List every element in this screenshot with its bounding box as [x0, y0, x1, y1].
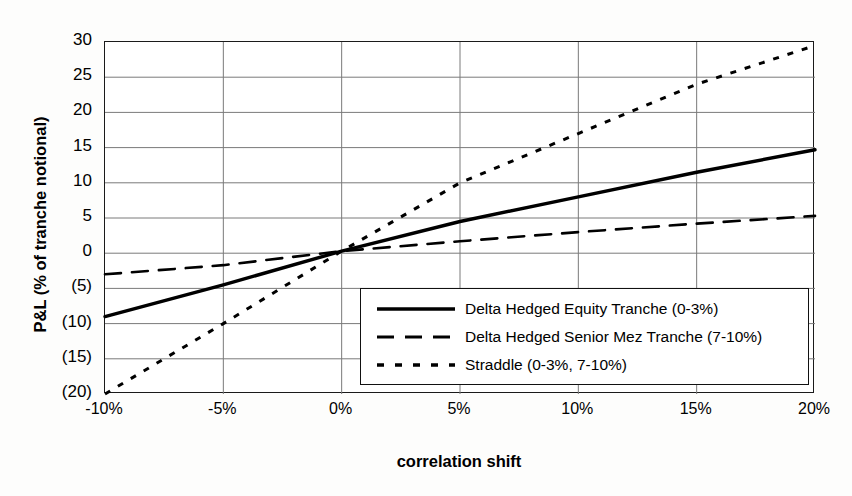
x-tick-label: 20% — [798, 400, 830, 418]
y-tick-label-text: 5 — [83, 206, 92, 226]
x-tick-label: 15% — [680, 400, 712, 418]
y-tick-label-text: 10 — [73, 171, 92, 191]
x-tick-label: 10% — [561, 400, 593, 418]
y-tick-label-text: (10) — [62, 312, 92, 332]
x-tick-label: 5% — [447, 400, 470, 418]
y-tick-label-text: 0 — [83, 241, 92, 261]
legend-item-label: Delta Hedged Senior Mez Tranche (7-10%) — [465, 328, 762, 346]
legend-item-label: Straddle (0-3%, 7-10%) — [465, 356, 627, 374]
x-tick-label: -10% — [85, 400, 122, 418]
series-line-2 — [105, 216, 815, 274]
y-tick-label-text: 20 — [73, 100, 92, 120]
y-tick-label-text: 15 — [73, 136, 92, 156]
legend-line-swatch — [375, 302, 457, 316]
y-tick-label-text: (5) — [71, 276, 92, 296]
legend-line-swatch — [375, 330, 457, 344]
legend-item: Straddle (0-3%, 7-10%) — [361, 351, 808, 379]
y-tick-label-text: (15) — [62, 347, 92, 367]
y-tick-label-text: 30 — [73, 30, 92, 50]
chart-legend: Delta Hedged Equity Tranche (0-3%)Delta … — [360, 288, 809, 385]
y-tick-label-text: (20) — [62, 382, 92, 402]
x-tick-label: 0% — [329, 400, 352, 418]
y-tick-label-text: 25 — [73, 65, 92, 85]
legend-item: Delta Hedged Equity Tranche (0-3%) — [361, 295, 808, 323]
y-axis-title: P&L (% of tranche notional) — [31, 45, 50, 405]
legend-item-label: Delta Hedged Equity Tranche (0-3%) — [465, 300, 718, 318]
legend-item: Delta Hedged Senior Mez Tranche (7-10%) — [361, 323, 808, 351]
legend-line-swatch — [375, 358, 457, 372]
x-tick-label: -5% — [208, 400, 236, 418]
x-axis-title: correlation shift — [104, 452, 814, 471]
chart-figure: P&L (% of tranche notional) 302520151050… — [0, 0, 852, 496]
